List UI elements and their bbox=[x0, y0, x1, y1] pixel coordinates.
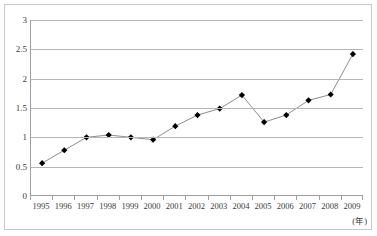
x-axis-tick-label: 1995 bbox=[33, 201, 50, 212]
y-axis-tick-label: 0.5 bbox=[3, 162, 27, 171]
x-axis-ticks bbox=[30, 196, 363, 200]
data-point-marker bbox=[305, 97, 311, 103]
gridline bbox=[31, 137, 363, 138]
data-point-marker bbox=[172, 123, 178, 129]
x-axis-tick-label: 2001 bbox=[166, 201, 183, 212]
x-axis-tick-labels: 1995199619971998199920002001200220032004… bbox=[30, 201, 363, 213]
x-axis-tick bbox=[97, 196, 98, 200]
x-axis-tick bbox=[319, 196, 320, 200]
x-axis-tick-label: 1996 bbox=[55, 201, 72, 212]
x-axis-tick bbox=[252, 196, 253, 200]
y-axis-tick-label: 0 bbox=[3, 192, 27, 201]
y-axis-tick-label: 2.5 bbox=[3, 45, 27, 54]
x-axis-tick bbox=[52, 196, 53, 200]
x-axis-tick bbox=[341, 196, 342, 200]
y-axis-tick-labels: 00.511.522.53 bbox=[0, 20, 27, 196]
x-axis-tick bbox=[274, 196, 275, 200]
x-axis-unit-label: (年) bbox=[352, 216, 367, 226]
x-axis-tick bbox=[296, 196, 297, 200]
y-axis-tick-label: 1 bbox=[3, 133, 27, 142]
gridline bbox=[31, 20, 363, 21]
x-axis-tick bbox=[141, 196, 142, 200]
x-axis-tick bbox=[362, 196, 363, 200]
x-axis-tick-label: 2002 bbox=[188, 201, 205, 212]
x-axis-tick bbox=[74, 196, 75, 200]
gridline bbox=[31, 79, 363, 80]
x-axis-tick-label: 1998 bbox=[99, 201, 116, 212]
y-axis-tick-label: 1.5 bbox=[3, 104, 27, 113]
x-axis-tick-label: 2006 bbox=[277, 201, 294, 212]
x-axis-tick bbox=[163, 196, 164, 200]
x-axis-tick bbox=[30, 196, 31, 200]
x-axis-tick bbox=[185, 196, 186, 200]
x-axis-tick-label: 2000 bbox=[144, 201, 161, 212]
x-axis-tick-label: 2005 bbox=[255, 201, 272, 212]
data-point-marker bbox=[283, 112, 289, 118]
data-point-marker bbox=[350, 51, 356, 57]
gridline bbox=[31, 167, 363, 168]
y-axis-tick-label: 3 bbox=[3, 16, 27, 25]
x-axis-tick-label: 2003 bbox=[210, 201, 227, 212]
x-axis-tick bbox=[230, 196, 231, 200]
data-point-marker bbox=[39, 160, 45, 166]
gridline bbox=[31, 108, 363, 109]
x-axis-tick-label: 1999 bbox=[121, 201, 138, 212]
data-point-marker bbox=[328, 91, 334, 97]
gridline bbox=[31, 49, 363, 50]
data-point-marker bbox=[61, 147, 67, 153]
x-axis-tick bbox=[119, 196, 120, 200]
x-axis-tick-label: 2004 bbox=[232, 201, 249, 212]
x-axis-tick-label: 2009 bbox=[343, 201, 360, 212]
x-axis-tick-label: 2007 bbox=[299, 201, 316, 212]
data-point-marker bbox=[194, 112, 200, 118]
plot-area bbox=[30, 20, 363, 196]
x-axis-tick-label: 1997 bbox=[77, 201, 94, 212]
line-chart-figure: 00.511.522.53 19951996199719981999200020… bbox=[0, 0, 377, 236]
x-axis-tick bbox=[208, 196, 209, 200]
x-axis-tick-label: 2008 bbox=[321, 201, 338, 212]
y-axis-tick-label: 2 bbox=[3, 74, 27, 83]
